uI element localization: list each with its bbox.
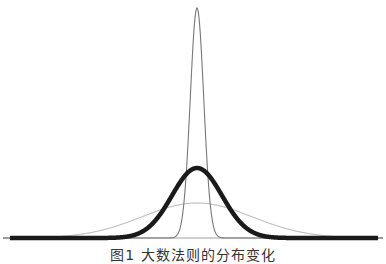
figure-caption: 图1 大数法则的分布变化 — [0, 244, 386, 264]
wide-curve — [3, 203, 383, 238]
